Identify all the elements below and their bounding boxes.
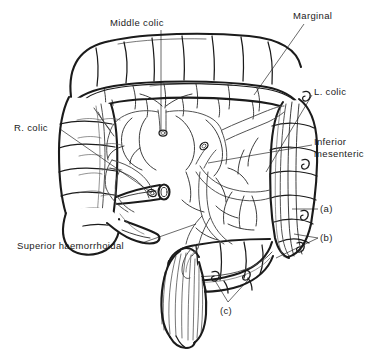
illustration-ink [59,24,318,348]
label-right-colic: R. colic [14,122,48,134]
colon-anatomy-illustration: .ink{fill:none;stroke:#1b1b1b;} .thick{s… [0,0,383,352]
label-item-a: (a) [320,203,333,215]
label-inferior-mesenteric: Inferior mesenteric [314,136,364,159]
label-marginal: Marginal [293,10,332,22]
leader-c2 [228,280,248,302]
label-left-colic: L. colic [314,86,346,98]
descending-colon [266,91,317,258]
label-middle-colic: Middle colic [110,17,164,29]
figure-canvas: .ink{fill:none;stroke:#1b1b1b;} .thick{s… [0,0,383,352]
label-superior-haemorrhoidal: Superior haemorrhoidal [17,240,124,252]
label-item-b: (b) [320,232,333,244]
label-item-c: (c) [220,305,232,317]
